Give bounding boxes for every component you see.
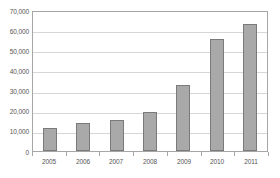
bar-slot	[100, 12, 133, 151]
bar[interactable]	[110, 120, 124, 151]
plot-area	[32, 11, 268, 152]
x-axis-tick	[32, 152, 33, 156]
x-axis-tick	[133, 152, 134, 156]
y-axis-tick-label: 10,000	[0, 128, 29, 135]
bar-slot	[234, 12, 267, 151]
bar[interactable]	[176, 85, 190, 151]
bar[interactable]	[76, 123, 90, 151]
bar[interactable]	[210, 39, 224, 151]
bar-series	[33, 12, 267, 151]
y-axis-tick-label: 20,000	[0, 108, 29, 115]
bar-chart: 010,00020,00030,00040,00050,00060,00070,…	[0, 0, 280, 178]
bar-slot	[200, 12, 233, 151]
bar[interactable]	[143, 112, 157, 151]
x-axis-tick	[268, 152, 269, 156]
bar-slot	[33, 12, 66, 151]
y-axis-tick-label: 50,000	[0, 48, 29, 55]
y-axis-tick-label: 30,000	[0, 88, 29, 95]
x-axis-tick	[66, 152, 67, 156]
x-axis-tick	[234, 152, 235, 156]
bar[interactable]	[43, 128, 57, 151]
bar-slot	[133, 12, 166, 151]
x-axis-tick	[167, 152, 168, 156]
bar-slot	[66, 12, 99, 151]
x-axis-tick	[99, 152, 100, 156]
y-axis-tick-label: 60,000	[0, 28, 29, 35]
x-axis-tick	[201, 152, 202, 156]
x-axis-tick-label: 2011	[231, 158, 271, 166]
y-axis-tick-label: 70,000	[0, 8, 29, 15]
bar-slot	[167, 12, 200, 151]
bar[interactable]	[243, 24, 257, 151]
y-axis-tick-label: 40,000	[0, 68, 29, 75]
y-axis-tick-label: 0	[0, 149, 29, 156]
